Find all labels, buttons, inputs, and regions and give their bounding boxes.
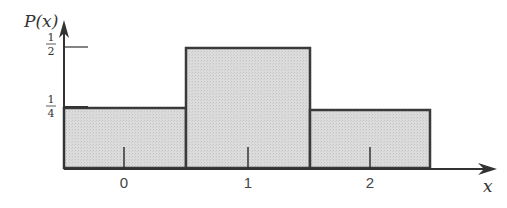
y-axis-label: P(x): [23, 11, 58, 31]
ytick-quarter-denominator: 4: [48, 107, 55, 120]
bars: [64, 48, 430, 168]
ytick-half-denominator: 2: [48, 45, 55, 58]
xtick-label-1: 1: [244, 174, 252, 191]
probability-histogram: 1 2 1 4 P(x) x 0 1 2: [0, 0, 507, 208]
x-axis-label: x: [483, 176, 493, 196]
ytick-quarter-numerator: 1: [48, 93, 55, 106]
xtick-label-2: 2: [366, 174, 374, 191]
xtick-label-0: 0: [120, 174, 128, 191]
bar-x-0: [64, 108, 186, 168]
ytick-half-numerator: 1: [48, 31, 55, 44]
